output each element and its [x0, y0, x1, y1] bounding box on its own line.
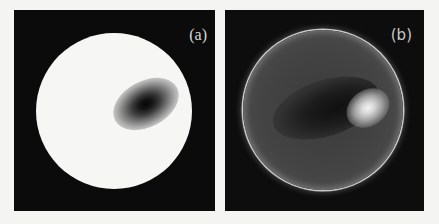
panel-a: (a)	[14, 10, 215, 211]
panel-label-b: (b)	[391, 27, 412, 43]
dark-aperture-disk	[243, 30, 403, 190]
panel-b: (b)	[225, 10, 424, 211]
bright-aperture-disk	[36, 33, 192, 189]
dark-spot	[104, 67, 187, 140]
panel-label-a: (a)	[189, 27, 207, 43]
